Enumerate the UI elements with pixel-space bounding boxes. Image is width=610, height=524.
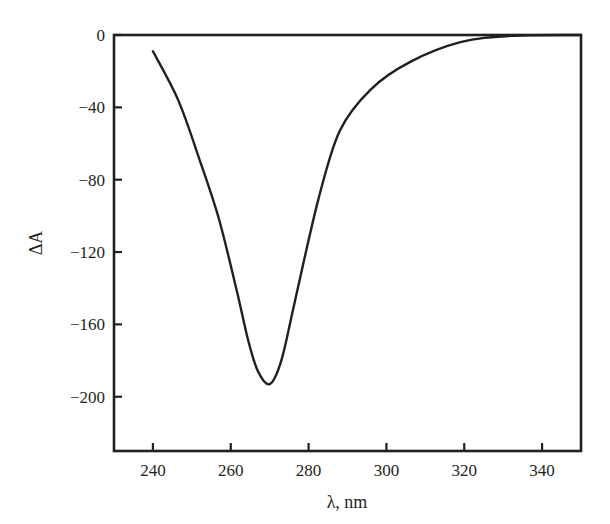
y-tick-label: −160 [70, 315, 105, 334]
x-tick-label: 260 [218, 461, 244, 480]
chart: 240260280300320340 0−40−80−120−160−200 λ… [0, 0, 610, 524]
x-tick-label: 340 [529, 461, 555, 480]
y-tick-label: −120 [70, 243, 105, 262]
x-tick-label: 320 [452, 461, 478, 480]
x-tick-label: 240 [140, 461, 166, 480]
y-tick-label: 0 [97, 26, 106, 45]
y-tick-label: −200 [70, 388, 105, 407]
y-axis-label: ΔA [26, 231, 46, 256]
plot-frame [114, 35, 581, 451]
plot-border [114, 35, 581, 451]
series-line [153, 35, 581, 384]
y-tick-label: −80 [78, 171, 105, 190]
x-axis-ticks: 240260280300320340 [140, 443, 555, 480]
x-tick-label: 280 [296, 461, 322, 480]
y-tick-label: −40 [78, 98, 105, 117]
x-tick-label: 300 [374, 461, 400, 480]
data-series [153, 35, 581, 384]
x-axis-label: λ, nm [327, 492, 368, 512]
